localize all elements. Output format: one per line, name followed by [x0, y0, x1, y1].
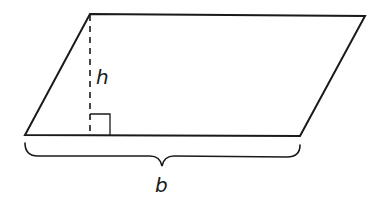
parallelogram-diagram: h b [0, 0, 375, 197]
right-angle-marker [90, 114, 110, 135]
height-label: h [96, 65, 109, 89]
base-label: b [155, 173, 168, 197]
base-brace [25, 143, 300, 166]
parallelogram-shape [25, 14, 365, 136]
